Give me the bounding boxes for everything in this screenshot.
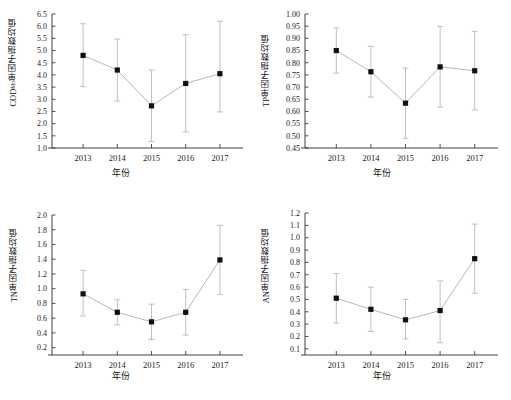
y-tick-label: 0.75 (286, 71, 300, 80)
y-tick-label: 1.2 (290, 209, 300, 218)
x-tick-label: 2013 (75, 360, 92, 370)
y-tick-label: 1.0 (37, 144, 47, 153)
y-tick-label: 0.9 (290, 246, 300, 255)
y-tick-label: 0.7 (290, 271, 300, 280)
y-tick-label: 0.6 (37, 314, 47, 323)
y-tick-label: 1.4 (37, 255, 47, 264)
y-tick-label: 0.55 (286, 119, 300, 128)
x-tick-label: 2015 (397, 153, 414, 163)
y-tick-label: 3.0 (37, 95, 47, 104)
y-tick-label: 1.8 (37, 226, 47, 235)
y-tick-label: 5.5 (37, 34, 47, 43)
x-tick-label: 2016 (177, 153, 194, 163)
x-tick-label: 2017 (211, 153, 228, 163)
y-tick-label: 0.3 (290, 320, 300, 329)
y-tick-label: 3.5 (37, 83, 47, 92)
y-tick-label: 0.80 (286, 59, 300, 68)
data-point-marker (472, 68, 477, 73)
y-tick-label: 2.0 (37, 211, 47, 220)
y-tick-label: 6.0 (37, 22, 47, 31)
x-tick-label: 2016 (177, 360, 194, 370)
x-axis-label-an: 年份 (373, 369, 391, 382)
data-point-marker (368, 307, 373, 312)
x-tick-label: 2015 (143, 153, 160, 163)
y-tick-label: 0.90 (286, 34, 300, 43)
data-point-marker (115, 310, 120, 315)
y-axis-label-tn-base: TN (9, 291, 19, 302)
x-tick-label: 2013 (328, 360, 345, 370)
x-tick-label: 2013 (75, 153, 92, 163)
y-axis-label-tn-rest: 单因子指数均值 (9, 228, 19, 291)
y-axis-label-cod-subscript: Mn (10, 81, 16, 89)
y-tick-label: 2.0 (37, 119, 47, 128)
x-tick-label: 2016 (432, 153, 449, 163)
x-tick-label: 2014 (362, 153, 380, 163)
data-point-marker (149, 103, 154, 108)
x-tick-label: 2014 (109, 153, 127, 163)
y-tick-label: 1.00 (286, 10, 300, 19)
y-tick-label: 0.65 (286, 95, 300, 104)
x-tick-label: 2013 (328, 153, 345, 163)
y-tick-label: 0.1 (290, 345, 300, 354)
y-tick-label: 0.60 (286, 107, 300, 116)
panel-cod-mn: CODMn单因子指数均值 年份 6.56.05.55.04.54.03.53.0… (0, 0, 255, 200)
y-tick-label: 6.5 (37, 10, 47, 19)
x-axis-label-tn: 年份 (112, 369, 130, 382)
data-point-marker (472, 256, 477, 261)
y-tick-label: 0.6 (290, 283, 300, 292)
data-point-marker (183, 81, 188, 86)
y-axis-label-an-base: AN (261, 291, 271, 303)
x-tick-label: 2016 (432, 360, 449, 370)
y-tick-label: 0.70 (286, 83, 300, 92)
y-tick-label: 0.95 (286, 22, 300, 31)
x-axis-label-tp: 年份 (373, 166, 391, 179)
y-tick-label: 2.5 (37, 107, 47, 116)
data-point-marker (403, 317, 408, 322)
panel-an: AN单因子指数均值 年份 1.21.11.00.90.80.70.60.50.4… (255, 200, 511, 400)
y-tick-label: 1.0 (290, 233, 300, 242)
y-tick-label: 0.2 (290, 332, 300, 341)
y-tick-label: 4.5 (37, 59, 47, 68)
y-tick-label: 1.0 (37, 284, 47, 293)
panel-tn: TN单因子指数均值 年份 2.01.81.61.41.21.00.80.60.4… (0, 200, 255, 400)
data-point-marker (438, 308, 443, 313)
y-tick-label: 1.5 (37, 132, 47, 141)
x-tick-label: 2017 (466, 360, 483, 370)
data-point-marker (149, 319, 154, 324)
panel-tp: TP单因子指数均值 年份 1.000.950.900.850.800.750.7… (255, 0, 511, 200)
y-tick-label: 0.8 (290, 258, 300, 267)
x-axis-label-cod: 年份 (112, 166, 130, 179)
y-axis-label-an-rest: 单因子指数均值 (261, 228, 271, 291)
data-point-marker (334, 48, 339, 53)
y-axis-label-cod: CODMn单因子指数均值 (9, 18, 18, 107)
x-tick-label: 2015 (143, 360, 160, 370)
x-tick-label: 2017 (211, 360, 228, 370)
data-point-marker (368, 69, 373, 74)
y-tick-label: 0.5 (290, 295, 300, 304)
y-tick-label: 0.45 (286, 144, 300, 153)
data-point-marker (217, 257, 222, 262)
y-tick-label: 1.6 (37, 240, 47, 249)
y-tick-label: 1.2 (37, 270, 47, 279)
y-tick-label: 5.0 (37, 46, 47, 55)
y-tick-label: 0.50 (286, 132, 300, 141)
y-tick-label: 1.1 (290, 221, 300, 230)
y-axis-label-tp-base: TP (261, 97, 271, 107)
x-tick-label: 2017 (466, 153, 483, 163)
data-point-marker (81, 291, 86, 296)
y-axis-label-cod-base: COD (8, 89, 18, 107)
y-axis-label-tp: TP单因子指数均值 (262, 34, 271, 107)
y-tick-label: 0.85 (286, 46, 300, 55)
y-tick-label: 0.4 (290, 308, 300, 317)
data-point-marker (334, 296, 339, 301)
y-tick-label: 0.4 (37, 329, 47, 338)
y-axis-label-cod-rest: 单因子指数均值 (8, 18, 18, 81)
y-axis-label-tp-rest: 单因子指数均值 (261, 34, 271, 97)
y-axis-label-tn: TN单因子指数均值 (10, 228, 19, 302)
data-point-marker (403, 101, 408, 106)
data-point-marker (183, 310, 188, 315)
y-tick-label: 4.0 (37, 71, 47, 80)
x-tick-label: 2015 (397, 360, 414, 370)
y-tick-label: 0.8 (37, 299, 47, 308)
data-point-marker (115, 67, 120, 72)
